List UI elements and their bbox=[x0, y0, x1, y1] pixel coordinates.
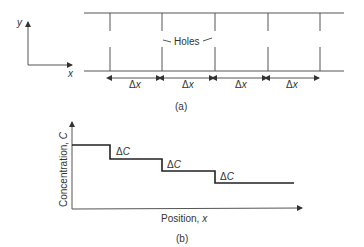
delta-x-dimensions: Δx Δx Δx Δx bbox=[111, 78, 319, 90]
y-axis-label: y bbox=[16, 17, 23, 28]
delta-x-label-1: Δx bbox=[129, 79, 142, 90]
partitions bbox=[110, 13, 320, 71]
diffusion-diagram: y x Holes Δx Δx Δx Δx bbox=[0, 0, 364, 247]
position-axis bbox=[72, 208, 302, 209]
concentration-profile bbox=[72, 145, 294, 183]
x-axis-label: x bbox=[67, 68, 74, 79]
delta-x-label-3: Δx bbox=[235, 79, 248, 90]
delta-c-label-2: ΔC bbox=[167, 159, 182, 170]
delta-c-label-3: ΔC bbox=[220, 171, 235, 182]
figure-a: y x Holes Δx Δx Δx Δx bbox=[16, 13, 344, 112]
holes-callout: Holes bbox=[163, 36, 212, 47]
delta-x-label-4: Δx bbox=[286, 79, 299, 90]
delta-c-label-1: ΔC bbox=[116, 146, 131, 157]
holes-label: Holes bbox=[174, 36, 200, 47]
xy-axes-icon: y x bbox=[16, 17, 74, 79]
x-axis-title: Position, x bbox=[161, 213, 208, 224]
delta-x-label-2: Δx bbox=[182, 79, 195, 90]
y-axis-title: Concentration, C bbox=[58, 131, 69, 207]
caption-b: (b) bbox=[176, 233, 188, 244]
figure-b: Concentration, C ΔC ΔC ΔC Position, x (b… bbox=[58, 122, 302, 244]
caption-a: (a) bbox=[175, 101, 187, 112]
